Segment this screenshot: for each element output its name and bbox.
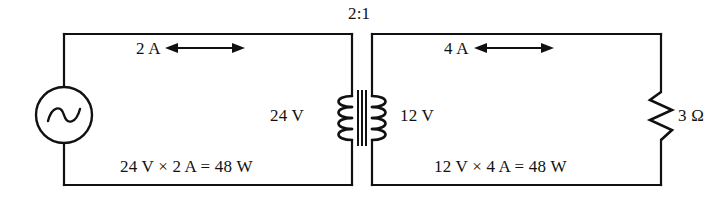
- transformer-primary-winding: [339, 96, 353, 140]
- secondary-turn-4: [372, 129, 386, 140]
- right-arrow-head-left: [474, 43, 487, 53]
- right-current-arrow: [474, 43, 554, 53]
- transformer-core: [358, 90, 366, 146]
- primary-turn-4: [339, 129, 353, 140]
- primary-voltage-label: 24 V: [270, 107, 304, 124]
- left-arrow-head-left: [165, 43, 178, 53]
- resistor-symbol: [650, 92, 672, 140]
- resistor-zigzag-icon: [650, 92, 672, 140]
- secondary-voltage-label: 12 V: [400, 107, 434, 124]
- left-current-arrow: [165, 43, 245, 53]
- secondary-turn-3: [372, 118, 386, 129]
- secondary-current-label: 4 A: [444, 40, 469, 57]
- circuit-canvas: [0, 0, 726, 205]
- primary-turn-3: [339, 118, 353, 129]
- primary-current-label: 2 A: [136, 40, 161, 57]
- circuit-diagram: 2:1 2 A 4 A 24 V 12 V 3 Ω 24 V × 2 A = 4…: [0, 0, 726, 205]
- right-arrow-head-right: [541, 43, 554, 53]
- secondary-power-equation: 12 V × 4 A = 48 W: [434, 158, 567, 175]
- secondary-turn-2: [372, 107, 386, 118]
- primary-turn-2: [339, 107, 353, 118]
- transformer-symbol: [339, 90, 386, 146]
- turns-ratio-label: 2:1: [348, 5, 370, 22]
- primary-turn-1: [339, 96, 353, 107]
- primary-power-equation: 24 V × 2 A = 48 W: [120, 158, 253, 175]
- left-arrow-head-right: [232, 43, 245, 53]
- transformer-secondary-winding: [372, 96, 386, 140]
- resistance-label: 3 Ω: [678, 107, 704, 124]
- ac-source-symbol: [36, 87, 92, 143]
- secondary-turn-1: [372, 96, 386, 107]
